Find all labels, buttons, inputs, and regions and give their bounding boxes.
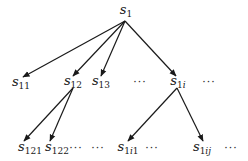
node-subscript: 1i — [177, 80, 186, 90]
node-s13: s13 — [92, 74, 110, 90]
node-subscript: 1ij — [200, 146, 211, 156]
node-subscript: 1 — [126, 9, 132, 19]
edge-s1-s12 — [73, 21, 125, 76]
node-s1ij: s1ij — [193, 140, 211, 156]
edge-s1i-s1i1 — [128, 88, 177, 141]
edge-s12-s121 — [24, 88, 73, 141]
node-base: s — [18, 139, 25, 154]
edge-s1i-s1ij — [177, 88, 203, 141]
ellipsis: ··· — [91, 143, 105, 154]
node-base: s — [120, 2, 127, 17]
node-base: s — [45, 139, 52, 154]
node-subscript: 11 — [19, 81, 30, 91]
node-base: s — [64, 73, 71, 88]
node-base: s — [12, 74, 19, 89]
edge-s1-s11 — [23, 21, 125, 77]
ellipsis: ··· — [224, 143, 238, 154]
node-subscript: 1i1 — [124, 146, 138, 156]
node-s1: s1 — [120, 3, 132, 19]
node-base: s — [117, 139, 124, 154]
node-subscript: 12 — [71, 80, 82, 90]
node-s12: s12 — [64, 74, 82, 90]
ellipsis: ··· — [69, 143, 83, 154]
edge-s1-s1i — [125, 21, 176, 76]
node-base: s — [193, 139, 200, 154]
node-s122: s122 — [45, 140, 69, 156]
node-subscript: 121 — [25, 146, 42, 156]
node-s1i1: s1i1 — [117, 140, 138, 156]
node-base: s — [92, 73, 99, 88]
ellipsis: ··· — [145, 143, 159, 154]
node-s1i: s1i — [170, 74, 185, 90]
node-s11: s11 — [12, 75, 30, 91]
node-s121: s121 — [18, 140, 42, 156]
node-subscript: 13 — [99, 80, 110, 90]
node-subscript: 122 — [52, 146, 69, 156]
edge-s1-s13 — [101, 21, 125, 76]
node-base: s — [170, 73, 177, 88]
ellipsis: ··· — [202, 77, 216, 88]
ellipsis: ··· — [133, 77, 147, 88]
edge-s12-s122 — [50, 88, 73, 141]
